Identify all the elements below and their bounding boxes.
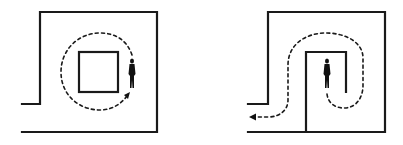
right-exit-arrowhead-icon [249, 114, 256, 121]
left-person-figure-icon [129, 59, 136, 89]
diagram [0, 0, 403, 145]
left-inner-square [79, 52, 118, 92]
right-person-figure-icon [324, 59, 331, 89]
right-outer-wall [248, 12, 385, 132]
left-panel [22, 12, 157, 132]
left-outer-wall [22, 12, 157, 132]
right-panel [248, 12, 385, 132]
left-circular-path [61, 33, 132, 110]
